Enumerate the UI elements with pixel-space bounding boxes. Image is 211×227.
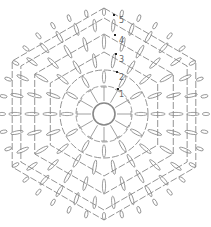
round-6-stitch <box>166 32 173 40</box>
round-4-stitch <box>169 112 184 115</box>
round-6-stitch <box>0 112 6 115</box>
crochet-chart: 12345 <box>0 0 211 227</box>
round-6-stitch <box>84 10 88 18</box>
round-2-stitch <box>102 71 105 84</box>
round-6-stitch <box>201 130 209 134</box>
round-1-stitch <box>115 121 127 128</box>
round-6-stitch <box>84 211 88 219</box>
round-6-stitch <box>12 60 20 66</box>
round-1-stitch <box>81 121 93 128</box>
round-4-stitch <box>25 112 40 115</box>
round-3-stitch <box>147 92 162 100</box>
round-4-stitch <box>82 37 89 52</box>
round-3-stitch <box>56 143 69 155</box>
round-5-stitch <box>179 74 192 82</box>
round-2-stitch <box>81 76 90 89</box>
round-3-stitch <box>92 160 98 175</box>
round-2-stitch <box>130 128 143 137</box>
round-5-stitch <box>187 112 200 115</box>
round-2-stitch <box>66 128 79 137</box>
round-2-stitch <box>135 112 148 115</box>
round-6-stitch <box>12 162 20 168</box>
round-4-stitch <box>102 35 105 50</box>
round-6-stitch <box>152 22 158 30</box>
round-3-stitch <box>92 53 98 68</box>
round-1-stitch <box>115 101 127 108</box>
round-2-stitch <box>61 112 74 115</box>
round-6-stitch <box>188 60 196 66</box>
round-6-stitch <box>0 94 7 98</box>
round-5-stitch <box>92 19 97 32</box>
round-5-stitch <box>111 19 116 32</box>
round-6-stitch <box>136 206 141 214</box>
round-start-marker <box>115 53 117 55</box>
round-6-stitch <box>178 176 186 183</box>
round-3-stitch <box>111 160 117 175</box>
round-1-stitch <box>81 101 93 108</box>
round-1-stitch <box>91 125 98 137</box>
round-3-stitch <box>139 73 152 85</box>
round-start-marker <box>113 14 115 16</box>
round-4-stitch <box>102 179 105 194</box>
round-3-stitch <box>139 143 152 155</box>
round-4-stitch <box>47 57 60 70</box>
round-3-stitch <box>46 92 61 100</box>
round-label: 2 <box>119 73 124 82</box>
round-6-stitch <box>188 162 196 168</box>
round-6-stitch <box>102 8 105 15</box>
round-6-stitch <box>196 76 204 81</box>
round-6-stitch <box>201 94 209 98</box>
round-1-stitch <box>111 91 118 103</box>
round-6-stitch <box>50 22 56 30</box>
round-4-stitch <box>159 145 173 155</box>
round-5-stitch <box>179 146 192 154</box>
round-6-stitch <box>0 130 7 134</box>
round-label: 4 <box>119 36 124 45</box>
round-label: 3 <box>119 55 124 64</box>
round-1-stitch <box>91 91 98 103</box>
round-5-stitch <box>128 23 135 36</box>
round-6-stitch <box>120 211 124 219</box>
round-6-stitch <box>66 14 71 22</box>
round-3-stitch <box>46 128 61 136</box>
round-6-stitch <box>166 188 173 196</box>
round-4-stitch <box>35 73 49 83</box>
round-6-stitch <box>4 76 12 81</box>
round-6-stitch <box>50 198 56 206</box>
round-6-stitch <box>196 146 204 151</box>
round-6-stitch <box>22 45 30 52</box>
round-2-stitch <box>66 91 79 100</box>
round-6-stitch <box>152 198 158 206</box>
round-2-stitch <box>130 91 143 100</box>
round-1-stitch <box>111 125 118 137</box>
round-6-stitch <box>4 146 12 151</box>
round-6-stitch <box>66 206 71 214</box>
round-3-stitch <box>111 53 117 68</box>
round-3-stitch <box>56 73 69 85</box>
round-start-marker <box>114 34 116 36</box>
round-5-stitch <box>9 112 22 115</box>
round-5-stitch <box>73 23 80 36</box>
round-6-stitch <box>102 212 105 219</box>
round-6-stitch <box>35 188 42 196</box>
round-label: 1 <box>119 90 124 99</box>
round-3-stitch <box>147 128 162 136</box>
round-6-arc <box>12 8 196 220</box>
round-6-stitch <box>202 112 209 115</box>
round-5-stitch <box>92 196 97 209</box>
round-4-stitch <box>35 145 49 155</box>
round-6-stitch <box>136 14 141 22</box>
round-2-stitch <box>81 140 90 153</box>
magic-ring <box>93 103 115 125</box>
round-2-stitch <box>118 140 127 153</box>
round-4-arc <box>35 34 174 194</box>
round-label: 5 <box>119 16 124 25</box>
round-6-stitch <box>22 176 30 183</box>
round-5-stitch <box>16 146 29 154</box>
round-3-stitch <box>72 60 82 74</box>
round-6-stitch <box>35 32 42 40</box>
round-6-stitch <box>178 45 186 52</box>
round-5-stitch <box>16 74 29 82</box>
round-start-marker <box>116 71 118 73</box>
round-5-stitch <box>111 196 116 209</box>
